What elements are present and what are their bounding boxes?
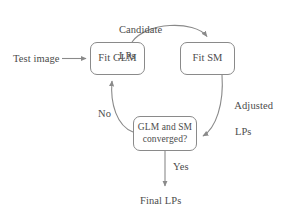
edge-fitsm-to-converged	[203, 75, 222, 136]
node-fit-sm[interactable]: Fit SM	[180, 42, 235, 75]
label-yes: Yes	[173, 160, 189, 173]
node-fit-sm-label: Fit SM	[192, 52, 222, 64]
label-candidate-lps-line2: LPs	[119, 50, 136, 61]
label-adjusted-lps-line2: LPs	[235, 126, 252, 137]
label-candidate-lps-line1: Candidate	[119, 24, 162, 35]
node-converged-line2: converged?	[143, 134, 188, 144]
label-adjusted-lps-line1: Adjusted	[234, 100, 273, 111]
flowchart-diagram: Fit GLM Fit SM GLM and SM converged? Tes…	[0, 0, 283, 216]
node-converged-text: GLM and SM converged?	[138, 122, 192, 145]
label-candidate-lps: Candidate LPs	[108, 10, 162, 76]
label-test-image: Test image	[13, 52, 60, 65]
edge-converged-to-fitglm	[112, 81, 133, 132]
label-adjusted-lps: Adjusted LPs	[224, 86, 273, 152]
node-converged-decision[interactable]: GLM and SM converged?	[133, 116, 197, 151]
node-converged-line1: GLM and SM	[138, 122, 192, 132]
label-final-lps: Final LPs	[140, 194, 181, 207]
label-no: No	[98, 107, 111, 120]
